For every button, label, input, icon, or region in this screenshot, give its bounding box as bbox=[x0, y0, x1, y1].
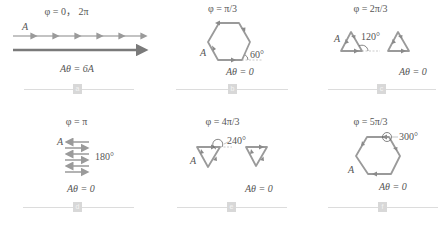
angle-label: 300° bbox=[399, 131, 418, 142]
phasor-triangles: 120° A bbox=[298, 0, 448, 113]
vector-label: A bbox=[21, 21, 29, 32]
angle-label: 180° bbox=[95, 151, 114, 162]
result-label: Aθ = 0 bbox=[399, 66, 427, 77]
panel-f: φ = 5π/3 300° A Aθ = 0 f bbox=[298, 113, 447, 226]
badge-e: e bbox=[227, 202, 236, 212]
badge-a: a bbox=[73, 84, 82, 94]
panel-b: φ = π/3 60° A Aθ = 0 b bbox=[150, 0, 299, 113]
panel-e: φ = 4π/3 240° A Aθ = 0 e bbox=[150, 113, 299, 226]
phasor-hexagon-reverse: 300° A bbox=[298, 113, 448, 226]
angle-label: 120° bbox=[361, 31, 380, 42]
phasor-hexagon: 60° A bbox=[150, 0, 299, 113]
result-label: Aθ = 0 bbox=[379, 181, 407, 192]
vector-label: A bbox=[347, 164, 355, 175]
panel-d: φ = π A 180° Aθ = 0 d bbox=[0, 113, 149, 226]
result-label: Aθ = 6A bbox=[60, 63, 94, 74]
angle-label: 60° bbox=[250, 49, 264, 60]
result-label: Aθ = 0 bbox=[67, 183, 95, 194]
badge-c: c bbox=[377, 84, 386, 94]
badge-d: d bbox=[73, 202, 82, 212]
panel-a: φ = 0， 2π A Aθ = 6A a bbox=[0, 0, 149, 113]
angle-label: 240° bbox=[227, 135, 246, 146]
vector-label: A bbox=[189, 155, 197, 166]
badge-b: b bbox=[228, 84, 237, 94]
panel-c: φ = 2π/3 120° A Aθ = 0 c bbox=[298, 0, 447, 113]
vector-label: A bbox=[199, 47, 207, 58]
vector-label: A bbox=[333, 33, 341, 44]
result-label: Aθ = 0 bbox=[245, 183, 273, 194]
badge-f: f bbox=[378, 202, 387, 212]
vector-label: A bbox=[56, 136, 64, 147]
phasor-chain-collinear: A bbox=[0, 0, 149, 113]
phasor-inverted-triangles: 240° A bbox=[150, 113, 299, 226]
result-label: Aθ = 0 bbox=[226, 66, 254, 77]
